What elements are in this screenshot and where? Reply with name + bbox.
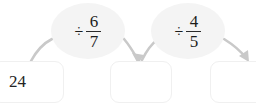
fraction-numerator: 4 <box>188 13 201 31</box>
divide-sign-icon: ÷ <box>75 24 84 40</box>
diagram-canvas: ÷ 6 7 ÷ 4 5 24 <box>0 0 256 112</box>
value-box-end[interactable] <box>210 61 256 103</box>
operation-bubble-1: ÷ 6 7 <box>51 3 125 59</box>
value-box-start[interactable]: 24 <box>0 61 64 103</box>
fraction-1: 6 7 <box>86 13 101 50</box>
fraction-denominator: 5 <box>188 32 201 50</box>
fraction-2: 4 5 <box>186 13 201 50</box>
arrow-start-to-middle-fall <box>124 39 138 60</box>
operation-bubble-2: ÷ 4 5 <box>151 3 225 59</box>
operation-expression-2: ÷ 4 5 <box>175 13 202 50</box>
value-box-start-value: 24 <box>0 72 26 92</box>
fraction-numerator: 6 <box>88 13 101 31</box>
fraction-denominator: 7 <box>88 32 101 50</box>
operation-expression-1: ÷ 6 7 <box>75 13 102 50</box>
value-box-middle[interactable] <box>110 61 172 103</box>
arrow-middle-to-end-fall <box>224 39 246 58</box>
divide-sign-icon: ÷ <box>175 24 184 40</box>
arrow-start-to-middle-rise <box>31 39 52 61</box>
